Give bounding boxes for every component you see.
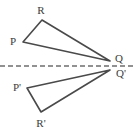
figure-canvas bbox=[0, 0, 134, 135]
geometry-figure: P R Q P' R' Q' bbox=[0, 0, 134, 135]
vertex-label-q: Q bbox=[115, 53, 123, 64]
vertex-label-p: P bbox=[10, 36, 16, 47]
triangle-pqr bbox=[23, 20, 110, 61]
vertex-label-p-prime: P' bbox=[13, 82, 21, 93]
triangle-pqr-reflected bbox=[27, 70, 110, 112]
vertex-label-q-prime: Q' bbox=[116, 68, 126, 79]
vertex-label-r-prime: R' bbox=[36, 118, 45, 129]
vertex-label-r: R bbox=[37, 5, 44, 16]
